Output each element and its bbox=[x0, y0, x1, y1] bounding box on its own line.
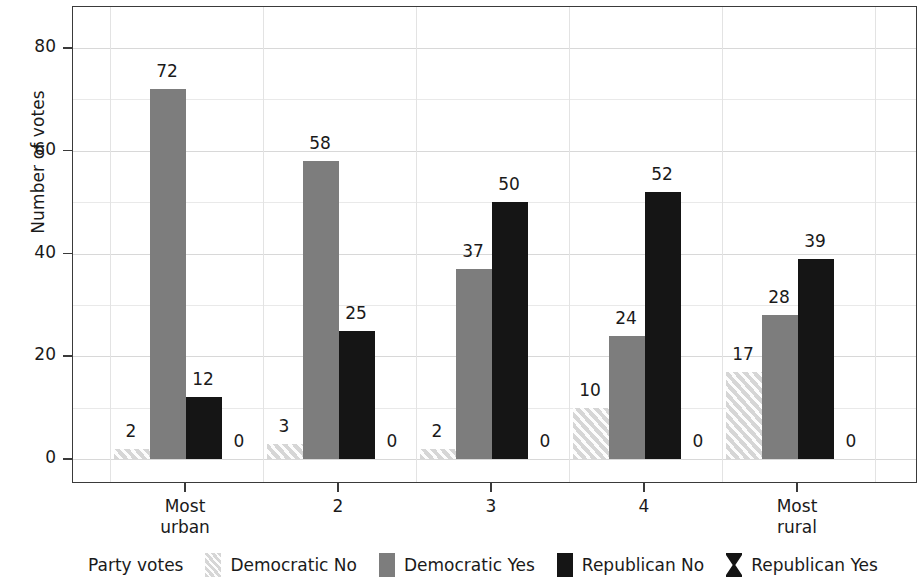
x-tick-label-line: Most bbox=[125, 496, 245, 517]
x-tick-label: 3 bbox=[431, 496, 551, 517]
republican-yes-swatch-icon bbox=[726, 553, 742, 577]
vertical-gridline bbox=[875, 7, 876, 482]
legend-item-repno[interactable]: Republican No bbox=[557, 553, 704, 577]
x-tick-label: 2 bbox=[278, 496, 398, 517]
y-tick bbox=[63, 458, 72, 460]
x-tick-label: Mosturban bbox=[125, 496, 245, 539]
x-tick-label-line: 2 bbox=[278, 496, 398, 517]
bar-value-label: 12 bbox=[173, 371, 233, 388]
legend: Party votes Democratic NoDemocratic YesR… bbox=[0, 548, 919, 582]
vertical-gridline bbox=[110, 7, 111, 482]
legend-items: Democratic NoDemocratic YesRepublican No… bbox=[205, 553, 899, 577]
gridline bbox=[73, 48, 916, 49]
legend-item-demno[interactable]: Democratic No bbox=[205, 553, 357, 577]
y-tick bbox=[63, 355, 72, 357]
bar-demyes-4[interactable] bbox=[762, 315, 798, 459]
x-tick-label-line: Most bbox=[737, 496, 857, 517]
legend-item-demyes[interactable]: Democratic Yes bbox=[379, 553, 535, 577]
bar-demyes-0[interactable] bbox=[150, 89, 186, 459]
legend-swatch-demyes bbox=[379, 553, 395, 577]
bar-value-label: 58 bbox=[290, 135, 350, 152]
gridline bbox=[73, 99, 916, 100]
vertical-gridline bbox=[722, 7, 723, 482]
vertical-gridline bbox=[263, 7, 264, 482]
y-tick-label: 0 bbox=[10, 449, 56, 466]
bar-demno-2[interactable] bbox=[420, 449, 456, 459]
gridline bbox=[73, 459, 916, 460]
bar-value-label: 25 bbox=[326, 305, 386, 322]
x-tick bbox=[796, 483, 798, 492]
x-tick-label: Mostrural bbox=[737, 496, 857, 539]
bar-value-label: 50 bbox=[479, 176, 539, 193]
bar-value-label: 0 bbox=[515, 433, 575, 450]
bar-value-label: 17 bbox=[713, 346, 773, 363]
legend-label: Republican Yes bbox=[751, 555, 878, 575]
bar-value-label: 39 bbox=[785, 233, 845, 250]
y-tick-label: 40 bbox=[10, 244, 56, 261]
x-tick-label-line: 4 bbox=[584, 496, 704, 517]
bar-value-label: 2 bbox=[407, 423, 467, 440]
bar-value-label: 3 bbox=[254, 418, 314, 435]
x-tick-label: 4 bbox=[584, 496, 704, 517]
gridline bbox=[73, 151, 916, 152]
bar-chart: Number of votes 020406080 Mosturban234Mo… bbox=[0, 0, 919, 587]
bar-demno-0[interactable] bbox=[114, 449, 150, 459]
bar-value-label: 37 bbox=[443, 243, 503, 260]
bar-value-label: 72 bbox=[137, 63, 197, 80]
bar-demno-3[interactable] bbox=[573, 408, 609, 459]
x-tick bbox=[490, 483, 492, 492]
legend-label: Republican No bbox=[582, 555, 704, 575]
bar-value-label: 24 bbox=[596, 310, 656, 327]
x-tick-label-line: rural bbox=[737, 517, 857, 538]
legend-swatch-repno bbox=[557, 553, 573, 577]
x-tick-label-line: 3 bbox=[431, 496, 551, 517]
x-tick bbox=[643, 483, 645, 492]
y-tick bbox=[63, 253, 72, 255]
x-tick bbox=[184, 483, 186, 492]
bar-value-label: 0 bbox=[668, 433, 728, 450]
y-tick bbox=[63, 47, 72, 49]
legend-label: Democratic No bbox=[230, 555, 357, 575]
y-tick-label: 80 bbox=[10, 38, 56, 55]
bar-demno-4[interactable] bbox=[726, 372, 762, 459]
y-tick-label: 20 bbox=[10, 346, 56, 363]
bar-value-label: 0 bbox=[821, 433, 881, 450]
vertical-gridline bbox=[569, 7, 570, 482]
legend-label: Democratic Yes bbox=[404, 555, 535, 575]
bar-repno-2[interactable] bbox=[492, 202, 528, 459]
x-tick bbox=[337, 483, 339, 492]
legend-swatch-demno bbox=[205, 553, 221, 577]
bar-value-label: 2 bbox=[101, 423, 161, 440]
y-axis-title: Number of votes bbox=[28, 62, 48, 262]
bar-demno-1[interactable] bbox=[267, 444, 303, 459]
vertical-gridline bbox=[416, 7, 417, 482]
bar-value-label: 0 bbox=[209, 433, 269, 450]
legend-title: Party votes bbox=[88, 555, 183, 575]
bar-value-label: 52 bbox=[632, 166, 692, 183]
bar-value-label: 28 bbox=[749, 289, 809, 306]
y-tick bbox=[63, 150, 72, 152]
bar-value-label: 10 bbox=[560, 382, 620, 399]
x-tick-label-line: urban bbox=[125, 517, 245, 538]
y-tick-label: 60 bbox=[10, 141, 56, 158]
legend-item-repyes[interactable]: Republican Yes bbox=[726, 553, 878, 577]
